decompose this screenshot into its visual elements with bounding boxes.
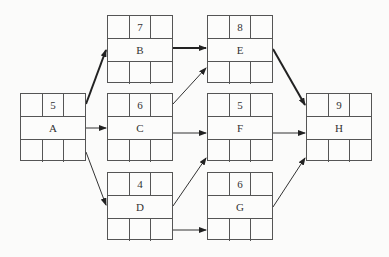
edge-c-e [173,68,206,104]
edge-a-d [86,152,106,205]
node-label: G [208,195,272,219]
duration: 6 [130,94,152,116]
edge-e-h [273,49,305,105]
node-label: E [208,38,272,62]
node-label: F [208,116,272,140]
edge-g-h [273,158,305,207]
node-f: 5 F [207,93,273,161]
duration: 7 [130,16,152,38]
node-label: D [108,195,172,219]
node-a: 5 A [20,93,86,161]
edge-a-b [86,50,106,104]
node-e: 8 E [207,15,273,83]
node-label: B [108,38,172,62]
node-b: 7 B [107,15,173,83]
duration: 4 [130,173,152,195]
duration: 8 [230,16,252,38]
node-c: 6 C [107,93,173,161]
edge-d-f [173,158,206,206]
duration: 5 [43,94,65,116]
node-label: H [307,116,371,140]
duration: 9 [329,94,351,116]
node-g: 6 G [207,172,273,240]
node-label: A [21,116,85,140]
node-h: 9 H [306,93,372,161]
node-d: 4 D [107,172,173,240]
duration: 5 [230,94,252,116]
duration: 6 [230,173,252,195]
node-label: C [108,116,172,140]
